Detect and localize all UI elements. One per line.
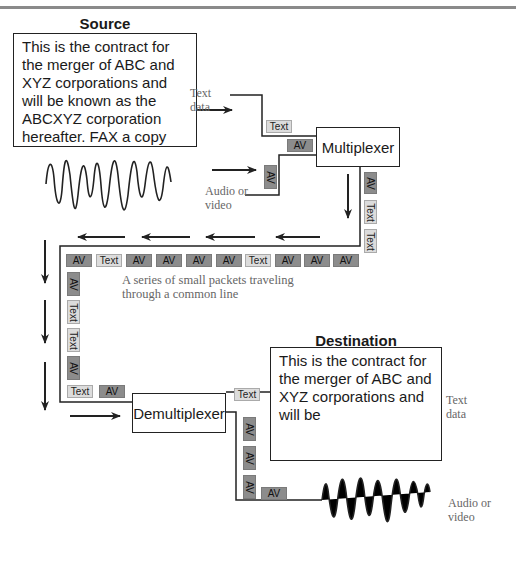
destination-document-text: This is the contract for the merger of A… <box>279 352 432 423</box>
audio-video-input-label: Audio or video <box>205 184 248 212</box>
source-document: This is the contract for the merger of A… <box>13 33 197 147</box>
text-data-input-label: Text data <box>190 86 211 114</box>
text-packet: Text <box>67 300 80 324</box>
av-packet: AV <box>66 254 92 267</box>
av-packet: AV <box>364 172 377 194</box>
text-packet: Text <box>67 328 80 352</box>
av-packet: AV <box>156 254 182 267</box>
av-packet: AV <box>261 487 287 500</box>
av-packet: AV <box>186 254 212 267</box>
av-packet: AV <box>264 165 277 189</box>
av-packet: AV <box>287 139 313 152</box>
av-packet: AV <box>333 254 359 267</box>
text-packet: Text <box>364 229 377 253</box>
common-line-caption: A series of small packets traveling thro… <box>122 273 294 301</box>
av-packet: AV <box>99 385 125 398</box>
text-packet: Text <box>364 200 377 224</box>
text-packet: Text <box>266 120 292 133</box>
av-packet: AV <box>304 254 330 267</box>
text-packet: Text <box>67 385 93 398</box>
source-document-text: This is the contract for the merger of A… <box>22 38 175 145</box>
text-data-output-label: Text data <box>446 393 467 421</box>
av-packet: AV <box>243 417 256 441</box>
multiplexer-box: Multiplexer <box>316 127 400 167</box>
av-packet: AV <box>243 446 256 470</box>
av-packet: AV <box>216 254 242 267</box>
destination-document: This is the contract for the merger of A… <box>270 347 442 461</box>
av-packet: AV <box>126 254 152 267</box>
av-packet: AV <box>243 475 256 499</box>
text-packet: Text <box>245 254 271 267</box>
audio-video-output-label: Audio or video <box>448 496 491 524</box>
av-packet: AV <box>67 272 80 296</box>
av-packet: AV <box>275 254 301 267</box>
av-packet: AV <box>67 356 80 380</box>
text-packet: Text <box>234 388 260 401</box>
demultiplexer-box: Demultiplexer <box>132 393 226 433</box>
source-heading: Source <box>13 15 197 32</box>
text-packet: Text <box>96 254 122 267</box>
